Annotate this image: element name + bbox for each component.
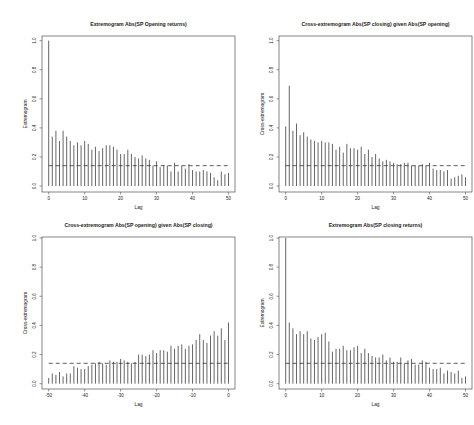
bar-series xyxy=(49,41,229,186)
y-axis-label: Cross-extremogram xyxy=(23,292,28,334)
x-axis-label: Lag xyxy=(134,205,142,210)
y-tick-label: 0.0 xyxy=(32,182,37,189)
y-tick-label: 0.6 xyxy=(32,293,37,300)
y-tick-label: 0.0 xyxy=(269,380,274,387)
x-axis: 01020304050 xyxy=(284,192,468,201)
y-tick-label: 0.4 xyxy=(269,124,274,131)
y-tick-label: 0.6 xyxy=(269,95,274,102)
y-tick-label: 0.2 xyxy=(269,153,274,160)
y-tick-label: 0.6 xyxy=(32,95,37,102)
y-tick-label: 1.0 xyxy=(269,37,274,44)
y-tick-label: 0.2 xyxy=(32,153,37,160)
x-tick-label: 0 xyxy=(284,196,287,201)
x-tick-label: 20 xyxy=(355,393,361,398)
x-tick-label: 0 xyxy=(227,393,230,398)
chart-title: Cross-extremogram Abs(SP opening) given … xyxy=(64,222,212,228)
x-tick-label: 20 xyxy=(118,196,124,201)
x-tick-label: 10 xyxy=(319,196,325,201)
x-tick-label: -40 xyxy=(81,393,88,398)
x-tick-label: 0 xyxy=(47,196,50,201)
y-tick-label: 0.4 xyxy=(269,322,274,329)
x-tick-label: 10 xyxy=(319,393,325,398)
y-tick-label: 1.0 xyxy=(32,37,37,44)
chart-svg: Extremogram Abs(SP Opening returns)01020… xyxy=(0,0,237,212)
y-axis: 0.00.20.40.60.81.0 xyxy=(269,234,279,386)
x-tick-label: 50 xyxy=(463,196,469,201)
y-tick-label: 1.0 xyxy=(269,234,274,241)
x-tick-label: 10 xyxy=(82,196,88,201)
x-axis: -50-40-30-20-100 xyxy=(45,389,230,398)
x-tick-label: -50 xyxy=(45,393,52,398)
y-tick-label: 0.0 xyxy=(269,182,274,189)
y-tick-label: 0.8 xyxy=(32,66,37,73)
extremogram-figure: Extremogram Abs(SP Opening returns)01020… xyxy=(0,0,474,425)
x-tick-label: -30 xyxy=(117,393,124,398)
x-axis: 01020304050 xyxy=(47,192,231,201)
y-tick-label: 0.4 xyxy=(32,124,37,131)
y-axis: 0.00.20.40.60.81.0 xyxy=(269,37,279,189)
chart-svg: Cross-extremogram Abs(SP opening) given … xyxy=(0,212,237,425)
y-tick-label: 0.0 xyxy=(32,380,37,387)
y-axis-label: Extremogram xyxy=(23,100,28,129)
y-tick-label: 0.2 xyxy=(32,351,37,358)
bar-series xyxy=(49,323,229,384)
x-tick-label: 40 xyxy=(427,196,433,201)
y-axis: 0.00.20.40.60.81.0 xyxy=(32,37,42,189)
y-tick-label: 0.6 xyxy=(269,293,274,300)
y-tick-label: 0.8 xyxy=(32,264,37,271)
x-axis-label: Lag xyxy=(371,205,379,210)
chart-title: Cross-extremogram Abs(SP closing) given … xyxy=(301,21,449,27)
x-axis: 01020304050 xyxy=(284,389,468,398)
y-tick-label: 0.8 xyxy=(269,264,274,271)
y-tick-label: 0.8 xyxy=(269,66,274,73)
y-tick-label: 1.0 xyxy=(32,234,37,241)
y-tick-label: 0.4 xyxy=(32,322,37,329)
x-tick-label: 30 xyxy=(391,196,397,201)
x-tick-label: -20 xyxy=(153,393,160,398)
x-tick-label: -10 xyxy=(189,393,196,398)
y-axis: 0.00.20.40.60.81.0 xyxy=(32,234,42,386)
panel-closing-extremogram: Extremogram Abs(SP closing returns)01020… xyxy=(237,212,474,425)
x-tick-label: 20 xyxy=(355,196,361,201)
panel-cross-opening-given-closing: Cross-extremogram Abs(SP opening) given … xyxy=(0,212,237,425)
x-tick-label: 30 xyxy=(391,393,397,398)
y-axis-label: Extremogram xyxy=(260,299,265,328)
bar-series xyxy=(286,238,466,384)
x-tick-label: 40 xyxy=(190,196,196,201)
x-tick-label: 40 xyxy=(427,393,433,398)
y-tick-label: 0.2 xyxy=(269,351,274,358)
panel-cross-closing-given-opening: Cross-extremogram Abs(SP closing) given … xyxy=(237,0,474,212)
chart-svg: Extremogram Abs(SP closing returns)01020… xyxy=(237,212,474,425)
x-tick-label: 0 xyxy=(284,393,287,398)
x-axis-label: Lag xyxy=(134,402,142,407)
bar-series xyxy=(286,86,466,186)
chart-title: Extremogram Abs(SP Opening returns) xyxy=(90,21,187,27)
chart-title: Extremogram Abs(SP closing returns) xyxy=(329,222,423,228)
x-tick-label: 30 xyxy=(154,196,160,201)
y-axis-label: Cross-extremogram xyxy=(260,93,265,135)
x-tick-label: 50 xyxy=(226,196,232,201)
chart-svg: Cross-extremogram Abs(SP closing) given … xyxy=(237,0,474,212)
x-axis-label: Lag xyxy=(371,402,379,407)
x-tick-label: 50 xyxy=(463,393,469,398)
panel-opening-extremogram: Extremogram Abs(SP Opening returns)01020… xyxy=(0,0,237,212)
